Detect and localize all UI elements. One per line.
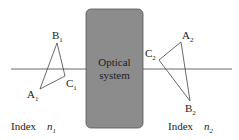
label-a1: A1	[27, 88, 39, 103]
optical-system-diagram: Optical system B1 C1 A1 A2 C2 B2 Index n…	[0, 0, 239, 140]
label-b1: B1	[52, 29, 63, 44]
label-c1: C1	[66, 77, 77, 92]
label-a2: A2	[182, 29, 194, 44]
box-label-line2: system	[99, 69, 130, 81]
index-n1: n1	[47, 120, 56, 135]
image-triangle	[159, 42, 190, 101]
box-label-line1: Optical	[98, 56, 130, 68]
label-c2: C2	[145, 47, 156, 62]
index-label-right: Index	[168, 120, 194, 132]
index-label-left: Index	[11, 120, 37, 132]
label-b2: B2	[185, 102, 196, 117]
index-n2: n2	[204, 120, 214, 135]
object-triangle	[40, 43, 65, 89]
